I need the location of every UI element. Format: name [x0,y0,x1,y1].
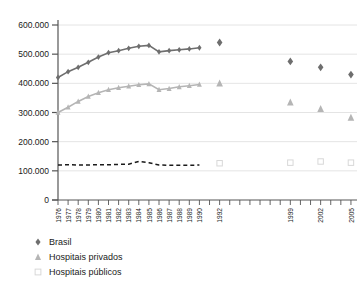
x-tick-label: 1978 [75,208,82,223]
series-hospitais-privados [56,79,355,120]
marker-diamond [217,39,223,47]
x-tick-label: 1987 [166,208,173,223]
marker-triangle [35,253,41,259]
y-tick-label: 400.000 [18,78,49,88]
x-tick-label: 1983 [125,208,132,223]
x-tick-label: 1985 [146,208,153,223]
x-tick-label: 2005 [348,208,355,223]
marker-diamond [127,45,131,51]
y-tick-label: 300.000 [18,108,49,118]
x-tick-label: 1977 [65,208,72,223]
marker-square [288,160,293,165]
x-tick-label: 1999 [287,208,294,223]
line-chart: 0100.000200.000300.000400.000500.000600.… [0,0,359,285]
x-tick-label: 1989 [186,208,193,223]
marker-diamond [96,54,100,60]
x-tick-label: 2002 [317,208,324,223]
legend-label: Hospitais privados [49,252,123,262]
marker-diamond [177,47,181,53]
marker-diamond [187,46,191,52]
legend-item-hospitais-privados[interactable]: Hospitais privados [35,252,123,262]
legend-label: Hospitais públicos [49,267,122,277]
y-tick-label: 0 [44,195,49,205]
marker-triangle [348,114,355,121]
marker-diamond [167,48,171,54]
marker-diamond [197,45,201,51]
marker-diamond [66,69,70,75]
marker-diamond [56,75,60,81]
legend-item-hospitais-públicos[interactable]: Hospitais públicos [35,267,122,277]
marker-diamond [288,58,294,66]
marker-square [348,160,353,165]
series-hospitais-públicos [58,159,354,166]
x-tick-label: 1984 [135,208,142,223]
x-tick-label: 1986 [156,208,163,223]
marker-diamond [76,64,80,70]
marker-square [217,161,222,166]
series-brasil [56,39,354,81]
y-tick-label: 200.000 [18,137,49,147]
marker-diamond [137,43,141,49]
marker-triangle [287,98,294,105]
marker-square [35,269,41,275]
legend-item-brasil[interactable]: Brasil [35,237,71,247]
x-tick-label: 1990 [196,208,203,223]
chart-container: 0100.000200.000300.000400.000500.000600.… [0,0,359,285]
marker-square [318,159,323,164]
x-tick-label: 1981 [105,208,112,223]
marker-diamond [348,71,354,79]
marker-triangle [317,105,324,112]
x-tick-label: 1976 [55,208,62,223]
marker-diamond [147,43,151,49]
marker-diamond [86,59,90,65]
x-tick-label: 1982 [115,208,122,223]
x-tick-label: 1988 [176,208,183,223]
marker-diamond [117,48,121,54]
legend-label: Brasil [49,237,72,247]
x-tick-label: 1980 [95,208,102,223]
series-line [58,162,199,166]
marker-diamond [35,238,40,245]
y-tick-label: 500.000 [18,49,49,59]
marker-diamond [106,50,110,56]
y-tick-label: 600.000 [18,20,49,30]
x-tick-label: 1979 [85,208,92,223]
y-tick-label: 100.000 [18,166,49,176]
marker-diamond [318,63,324,71]
x-tick-label: 1992 [216,208,223,223]
